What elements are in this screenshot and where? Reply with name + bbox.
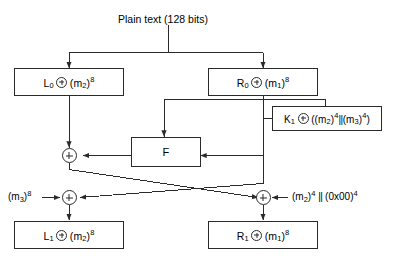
box-L0-label: L0(m2)8 bbox=[44, 77, 95, 88]
box-L1[interactable]: L1(m2)8 bbox=[14, 221, 124, 249]
box-L1-label: L1(m2)8 bbox=[44, 230, 95, 241]
wire-R0-cross-left bbox=[80, 184, 263, 198]
xor-node-right-output[interactable] bbox=[256, 190, 271, 205]
box-L0[interactable]: L0(m2)8 bbox=[14, 68, 124, 96]
xor-icon bbox=[251, 77, 262, 88]
box-K1-label: K1((m2)4||(m3)4) bbox=[284, 113, 370, 125]
box-R0[interactable]: R0(m1)8 bbox=[208, 68, 318, 96]
box-R0-label: R0(m1)8 bbox=[237, 77, 290, 88]
xor-node-round[interactable] bbox=[62, 148, 77, 163]
page-title: Plain text (128 bits) bbox=[118, 14, 208, 25]
xor-icon bbox=[298, 113, 309, 124]
wire-xor-cross-right bbox=[69, 163, 258, 198]
xor-node-left-output[interactable] bbox=[62, 190, 77, 205]
label-m2-feed: (m2)4 || (0x00)4 bbox=[292, 192, 358, 202]
box-K1[interactable]: K1((m2)4||(m3)4) bbox=[272, 106, 382, 131]
box-R1-label: R1(m1)8 bbox=[237, 230, 290, 241]
xor-icon bbox=[251, 230, 262, 241]
box-R1[interactable]: R1(m1)8 bbox=[208, 221, 318, 249]
label-m3-feed: (m3)8 bbox=[8, 192, 31, 202]
xor-icon bbox=[56, 230, 67, 241]
box-F[interactable]: F bbox=[131, 137, 201, 167]
diagram-canvas: Plain text (128 bits) L0(m2)8 R0(m1)8 K1… bbox=[0, 0, 393, 262]
box-F-label: F bbox=[163, 147, 170, 158]
xor-icon bbox=[56, 77, 67, 88]
